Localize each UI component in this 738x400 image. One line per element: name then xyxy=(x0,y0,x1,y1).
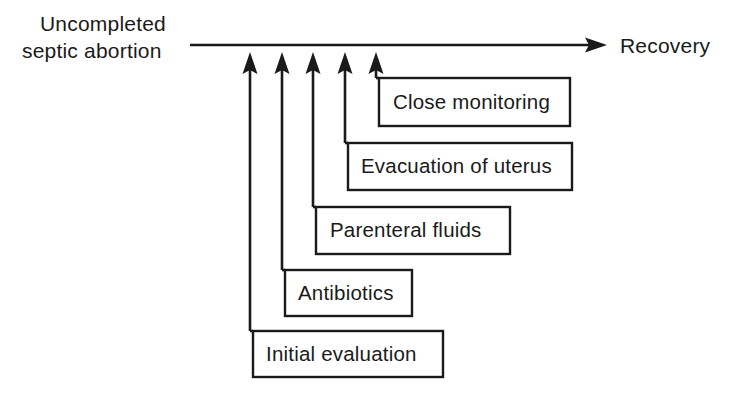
diagram-root: Uncompleted septic abortion Recovery Clo… xyxy=(0,0,738,400)
flow-diagram: Uncompleted septic abortion Recovery Clo… xyxy=(0,0,738,400)
step-label-parenteral-fluids: Parenteral fluids xyxy=(330,218,482,241)
step-label-close-monitoring: Close monitoring xyxy=(393,90,550,113)
start-label-line2: septic abortion xyxy=(22,39,162,62)
step-label-antibiotics: Antibiotics xyxy=(298,281,394,304)
main-axis-group xyxy=(190,38,607,53)
step-label-evacuation-of-uterus: Evacuation of uterus xyxy=(361,154,552,177)
start-label-group: Uncompleted septic abortion xyxy=(22,12,166,62)
start-label-line1: Uncompleted xyxy=(40,12,166,35)
step-label-initial-evaluation: Initial evaluation xyxy=(266,342,417,365)
end-label-recovery: Recovery xyxy=(620,34,711,57)
step-group-close-monitoring: Close monitoring xyxy=(369,52,571,126)
